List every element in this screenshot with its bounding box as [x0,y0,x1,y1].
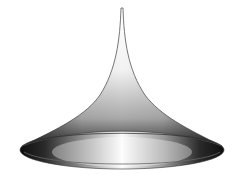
rendered-surface-figure: pseudosphere-like horn surface [0,0,238,188]
horn-body [22,8,222,146]
